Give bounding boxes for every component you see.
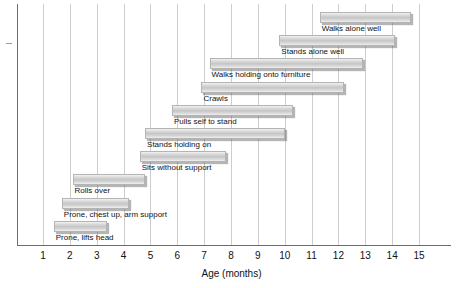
milestone-row: Sits without support <box>0 151 463 174</box>
x-tick-label-12: 12 <box>328 250 348 262</box>
milestone-bar-label: Pulls self to stand <box>174 117 237 127</box>
x-tick-label-6: 6 <box>167 250 187 262</box>
milestone-bar <box>73 174 146 185</box>
milestone-bar-label: Walks alone well <box>322 24 381 34</box>
x-axis-title: Age (months) <box>0 268 463 279</box>
milestone-bar-label: Walks holding onto furniture <box>212 70 311 80</box>
milestone-row: Prone, lifts head <box>0 221 463 244</box>
milestone-bar <box>172 105 293 116</box>
x-tick-label-13: 13 <box>355 250 375 262</box>
milestone-bar <box>140 151 226 162</box>
milestone-row: Rolls over <box>0 174 463 197</box>
x-tick-label-8: 8 <box>221 250 241 262</box>
milestone-bar-label: Stands holding on <box>147 140 211 150</box>
milestone-row: Walks holding onto furniture <box>0 58 463 81</box>
milestone-bar-label: Sits without support <box>142 163 212 173</box>
milestone-bar <box>320 12 411 23</box>
x-tick-label-11: 11 <box>302 250 322 262</box>
x-tick-label-15: 15 <box>409 250 429 262</box>
milestone-bar-label: Prone, lifts head <box>56 233 114 243</box>
x-tick-label-2: 2 <box>60 250 80 262</box>
x-tick-label-4: 4 <box>114 250 134 262</box>
milestone-bar-label: Stands alone well <box>281 47 344 57</box>
milestone-row: Walks alone well <box>0 12 463 35</box>
milestone-row: Prone, chest up, arm support <box>0 198 463 221</box>
x-tick-label-7: 7 <box>194 250 214 262</box>
x-tick-label-14: 14 <box>382 250 402 262</box>
milestone-bar <box>201 82 343 93</box>
milestone-bar <box>145 128 285 139</box>
milestone-bar <box>62 198 129 209</box>
milestone-row: Pulls self to stand <box>0 105 463 128</box>
milestone-row: Stands holding on <box>0 128 463 151</box>
x-tick-label-9: 9 <box>248 250 268 262</box>
x-tick-label-1: 1 <box>33 250 53 262</box>
milestone-bar <box>279 35 394 46</box>
milestone-row: Crawls <box>0 82 463 105</box>
x-tick-label-10: 10 <box>275 250 295 262</box>
milestone-bar-label: Rolls over <box>75 186 111 196</box>
milestone-gantt-chart: Walks alone wellStands alone wellWalks h… <box>0 0 463 288</box>
x-axis-line <box>17 245 451 246</box>
milestone-bar <box>210 58 363 69</box>
x-tick-label-3: 3 <box>87 250 107 262</box>
x-tick-label-5: 5 <box>140 250 160 262</box>
milestone-bar <box>54 221 108 232</box>
milestone-bar-label: Crawls <box>203 94 227 104</box>
milestone-bar-label: Prone, chest up, arm support <box>64 210 167 220</box>
milestone-row: Stands alone well <box>0 35 463 58</box>
